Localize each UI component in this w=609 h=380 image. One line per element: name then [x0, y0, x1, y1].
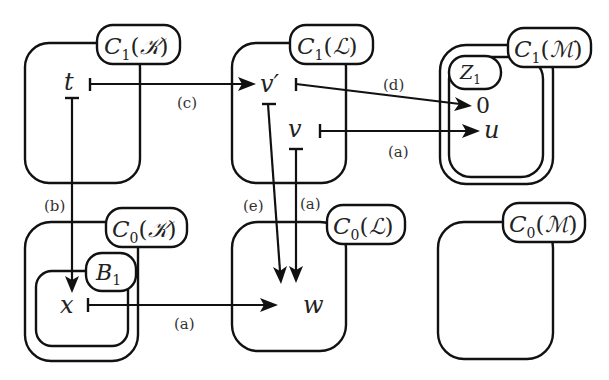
complex-c0-l: C0(ℒ)	[232, 205, 405, 351]
edge-line	[268, 104, 280, 271]
complex-c0-k: B1 C0(𝒦)	[25, 208, 187, 361]
edge-label-b: (b)	[44, 197, 65, 215]
edge-label-d: (d)	[383, 76, 404, 94]
node-t: t	[64, 68, 74, 96]
complex-c1-l: C1(ℒ)	[232, 25, 373, 183]
edge-line	[296, 84, 460, 104]
edge-v-to-w: (a)	[289, 149, 321, 283]
node-u: u	[484, 116, 499, 144]
complex-c0-m: C0(ℳ)	[438, 203, 585, 359]
edge-label-a-bottom: (a)	[174, 315, 195, 333]
complex-c1-k: C1(𝒦)	[25, 25, 180, 183]
complex-c1-m-label: C1(ℳ)	[514, 36, 583, 66]
edge-t-to-x: (b)	[44, 98, 79, 293]
edge-vprime-to-w: (e)	[243, 104, 287, 284]
complex-c1-k-label: C1(𝒦)	[104, 33, 169, 63]
edge-label-c: (c)	[177, 94, 197, 112]
chain-complex-diagram: C1(𝒦) C1(ℒ) Z1 C1(ℳ) B1 C0(𝒦)	[0, 0, 609, 380]
edge-v-to-u: (a)	[320, 124, 480, 161]
node-v-prime: v′	[260, 70, 280, 98]
complex-c0-m-label: C0(ℳ)	[509, 211, 578, 241]
complex-c1-l-label: C1(ℒ)	[297, 33, 358, 63]
node-x: x	[60, 291, 74, 319]
node-v: v	[288, 115, 302, 143]
complex-c0-l-box	[232, 222, 346, 351]
complex-c0-l-label: C0(ℒ)	[333, 213, 394, 243]
node-zero: 0	[476, 93, 490, 118]
edge-vprime-to-zero: (d)	[296, 76, 472, 111]
complex-c0-k-label: C0(𝒦)	[112, 216, 177, 246]
node-w: w	[303, 291, 324, 319]
edge-label-a-vertical: (a)	[300, 195, 321, 213]
edge-label-a-top: (a)	[388, 143, 409, 161]
edge-label-e: (e)	[243, 197, 264, 215]
edge-x-to-w: (a)	[88, 298, 278, 333]
